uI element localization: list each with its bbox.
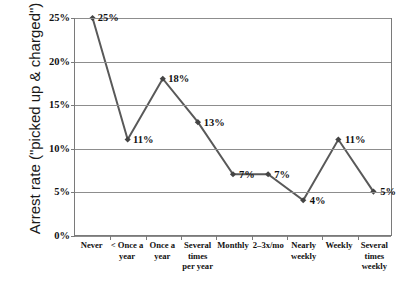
data-point-label: 5%: [380, 187, 396, 197]
y-tick-mark: [71, 192, 75, 193]
y-tick-mark: [71, 105, 75, 106]
x-tick-label: Severaltimesweekly: [353, 240, 396, 272]
x-tick-label-line: weekly: [353, 261, 396, 272]
series-line: [75, 18, 391, 235]
y-tick-mark: [71, 236, 75, 237]
data-point-label: 11%: [133, 135, 153, 145]
x-tick-label-line: weekly: [282, 251, 325, 262]
x-tick-label-line: times: [353, 251, 396, 262]
gridline: [75, 62, 391, 63]
x-tick-label-line: per year: [176, 261, 219, 272]
y-tick-mark: [71, 62, 75, 63]
y-tick-label: 10%: [36, 144, 70, 154]
x-tick-label-line: times: [176, 251, 219, 262]
y-tick-label: 15%: [36, 100, 70, 110]
x-axis-tick-labels: Never< Once ayearOnce ayearSeveraltimesp…: [74, 240, 392, 290]
y-axis-tick-labels: 25%20%15%10%5%0%: [34, 0, 70, 290]
y-tick-mark: [71, 149, 75, 150]
data-point-label: 4%: [310, 196, 326, 206]
y-tick-mark: [71, 18, 75, 19]
data-point-label: 11%: [345, 135, 365, 145]
data-point-label: 7%: [274, 170, 290, 180]
data-point-label: 25%: [98, 13, 119, 23]
gridline: [75, 149, 391, 150]
gridline: [75, 105, 391, 106]
data-point-label: 13%: [204, 118, 225, 128]
plot-area: 25%11%18%13%7%7%4%11%5%: [74, 18, 392, 236]
data-point-label: 7%: [239, 170, 255, 180]
gridline: [75, 18, 391, 19]
y-tick-label: 20%: [36, 57, 70, 67]
y-tick-label: 0%: [36, 231, 70, 241]
gridline: [75, 192, 391, 193]
line-chart: Arrest rate ("picked up & charged") 25%2…: [0, 0, 411, 290]
gridline: [75, 236, 391, 237]
y-tick-label: 5%: [36, 187, 70, 197]
x-tick-label-line: Several: [353, 240, 396, 251]
y-tick-label: 25%: [36, 13, 70, 23]
data-point-label: 18%: [168, 74, 189, 84]
